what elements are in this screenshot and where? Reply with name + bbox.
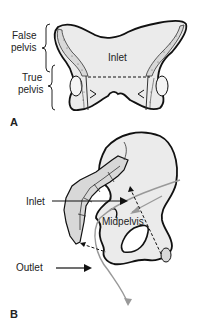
inlet-label-a: Inlet (108, 52, 127, 63)
true-pelvis-label-line2: pelvis (18, 84, 44, 95)
inlet-label-b: Inlet (26, 196, 45, 207)
panel-b-letter: B (10, 308, 18, 320)
outlet-arrow (56, 264, 92, 272)
outlet-label: Outlet (16, 262, 43, 273)
frontal-pelvis-illustration (55, 21, 187, 110)
midpelvis-label: Midpelvis (102, 216, 144, 227)
false-pelvis-label-line2: pelvis (11, 42, 37, 53)
false-pelvis-label-line1: False (12, 30, 36, 41)
true-pelvis-label-line1: True (22, 72, 42, 83)
false-pelvis-bracket (42, 24, 50, 72)
panel-a-letter: A (10, 116, 18, 128)
